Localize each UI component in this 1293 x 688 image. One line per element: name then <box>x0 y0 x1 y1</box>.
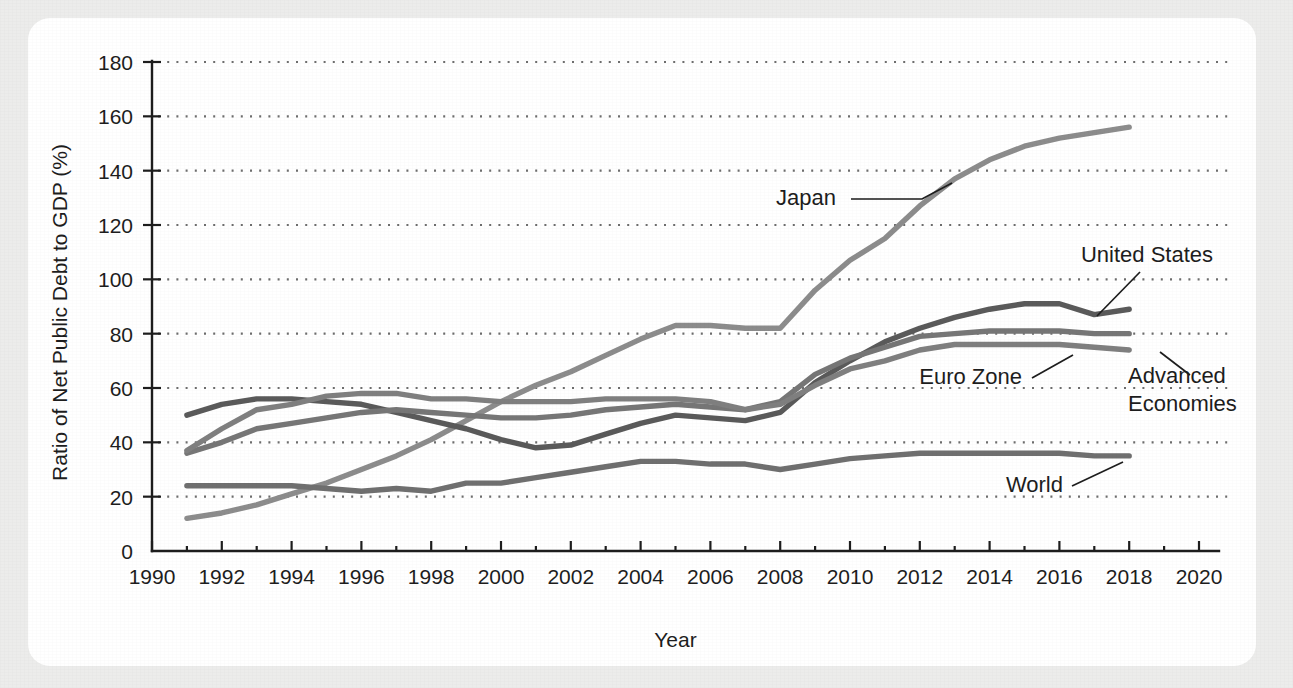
y-tick-label-180: 180 <box>98 51 133 74</box>
annotation-leader-world <box>1072 462 1123 486</box>
x-tick-label-2008: 2008 <box>757 565 804 588</box>
x-tick-label-2010: 2010 <box>827 565 874 588</box>
x-tick-label-2012: 2012 <box>896 565 943 588</box>
annotation-label-japan: Japan <box>776 185 836 210</box>
y-tick-label-140: 140 <box>98 160 133 183</box>
annotation-leader-japan <box>851 183 952 199</box>
y-tick-label-60: 60 <box>110 377 133 400</box>
x-tick-label-2018: 2018 <box>1106 565 1153 588</box>
x-tick-label-2002: 2002 <box>547 565 594 588</box>
series-line-euro-zone <box>187 345 1129 451</box>
annotation-label-advanced-economies-line2: Economies <box>1128 391 1237 416</box>
gridlines <box>158 62 1233 497</box>
x-tick-label-2016: 2016 <box>1036 565 1083 588</box>
x-tick-label-2000: 2000 <box>478 565 525 588</box>
x-tick-label-2020: 2020 <box>1176 565 1223 588</box>
chart-canvas: 020406080100120140160180 199019921994199… <box>0 0 1293 688</box>
x-tick-label-2004: 2004 <box>617 565 664 588</box>
series-line-world <box>187 453 1129 491</box>
x-tick-label-2006: 2006 <box>687 565 734 588</box>
annotation-label-advanced-economies-line1: Advanced <box>1128 363 1226 388</box>
x-axis-tick-labels: 1990199219941996199820002002200420062008… <box>129 565 1223 588</box>
x-tick-label-1990: 1990 <box>129 565 176 588</box>
y-axis-title: Ratio of Net Public Debt to GDP (%) <box>48 144 71 481</box>
annotation-label-united-states: United States <box>1081 242 1213 267</box>
annotation-label-euro-zone: Euro Zone <box>919 364 1022 389</box>
x-tick-label-2014: 2014 <box>966 565 1013 588</box>
x-tick-label-1994: 1994 <box>268 565 315 588</box>
annotation-leader-euro-zone <box>1032 355 1073 378</box>
y-tick-label-80: 80 <box>110 323 133 346</box>
x-axis-title: Year <box>654 628 696 651</box>
y-tick-label-100: 100 <box>98 268 133 291</box>
x-tick-label-1998: 1998 <box>408 565 455 588</box>
y-tick-label-160: 160 <box>98 105 133 128</box>
y-axis-tick-labels: 020406080100120140160180 <box>98 51 133 563</box>
series-annotations: JapanUnited StatesEuro ZoneAdvancedEcono… <box>776 183 1237 497</box>
series-line-advanced-economies <box>187 331 1129 453</box>
y-tick-label-0: 0 <box>121 540 133 563</box>
annotation-label-world: World <box>1006 472 1063 497</box>
x-tick-label-1996: 1996 <box>338 565 385 588</box>
y-tick-label-40: 40 <box>110 431 133 454</box>
data-series <box>187 127 1129 518</box>
y-tick-label-120: 120 <box>98 214 133 237</box>
y-tick-label-20: 20 <box>110 486 133 509</box>
x-tick-label-1992: 1992 <box>198 565 245 588</box>
